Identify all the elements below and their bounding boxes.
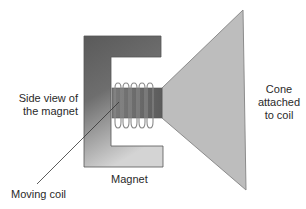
cone-label-line1: Cone (252, 83, 306, 96)
moving-coil-label: Moving coil (11, 188, 66, 201)
cone-label-line2: attached (252, 96, 306, 109)
speaker-cone (162, 10, 246, 190)
side-view-label-line1: Side view of (2, 92, 78, 105)
cone-label-line3: to coil (252, 109, 306, 122)
side-view-label-line2: the magnet (2, 105, 78, 118)
magnet-label: Magnet (111, 173, 148, 186)
side-view-label: Side view of the magnet (2, 92, 78, 118)
cone-label: Cone attached to coil (252, 83, 306, 122)
